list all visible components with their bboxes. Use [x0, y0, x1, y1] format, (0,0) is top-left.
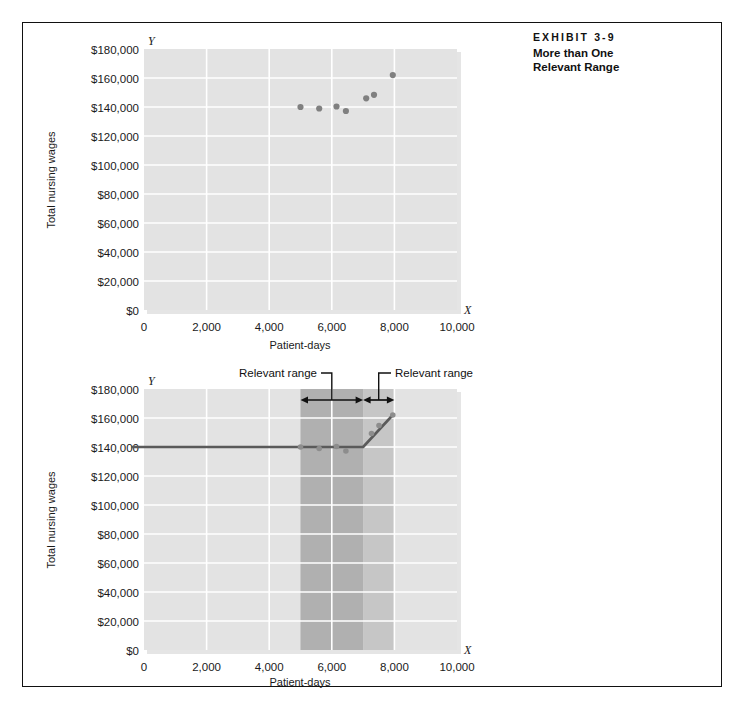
- exhibit-title-line1: More than One: [533, 46, 703, 60]
- x-tick-label: 6,000: [317, 321, 346, 333]
- y-tick-label: $120,000: [91, 131, 139, 143]
- x-tick-label: 10,000: [439, 661, 474, 673]
- data-point: [390, 412, 396, 418]
- exhibit-number: EXHIBIT 3-9: [533, 31, 703, 43]
- y-tick-label: $160,000: [91, 413, 139, 425]
- data-point: [316, 446, 322, 452]
- x-tick-label: 8,000: [380, 321, 409, 333]
- exhibit-title-line2: Relevant Range: [533, 60, 703, 74]
- x-axis-name: X: [463, 643, 472, 657]
- y-tick-label: $80,000: [97, 189, 139, 201]
- x-tick-label: 10,000: [439, 321, 474, 333]
- data-point: [316, 105, 322, 111]
- relevant-range-chart: Y X $180,000 $160,000 $140,000 $120,000 …: [23, 353, 503, 688]
- data-point: [363, 95, 369, 101]
- data-point: [334, 444, 340, 450]
- x-tick-label: 4,000: [255, 321, 284, 333]
- y-tick-label: $100,000: [91, 160, 139, 172]
- x-tick-label: 8,000: [380, 661, 409, 673]
- data-point: [333, 103, 339, 109]
- relevant-range-label-right: Relevant range: [395, 367, 473, 379]
- data-point: [343, 108, 349, 114]
- y-tick-label: $80,000: [97, 529, 139, 541]
- x-axis-name: X: [463, 303, 472, 317]
- data-point: [376, 423, 382, 429]
- y-tick-label: $40,000: [97, 587, 139, 599]
- data-point: [369, 431, 375, 437]
- x-tick-label: 0: [141, 661, 147, 673]
- y-tick-label: $40,000: [97, 247, 139, 259]
- y-tick-label: $20,000: [97, 616, 139, 628]
- data-point: [297, 104, 303, 110]
- relevant-range-label-left: Relevant range: [239, 367, 317, 379]
- y-tick-label: $0: [126, 645, 139, 657]
- data-point: [343, 448, 349, 454]
- y-tick-label: $20,000: [97, 276, 139, 288]
- x-tick-label: 2,000: [192, 321, 221, 333]
- x-tick-label: 2,000: [192, 661, 221, 673]
- x-tick-label: 6,000: [317, 661, 346, 673]
- data-point: [390, 72, 396, 78]
- data-point: [371, 92, 377, 98]
- data-point: [298, 444, 304, 450]
- x-tick-label: 0: [141, 321, 147, 333]
- y-tick-label: $60,000: [97, 558, 139, 570]
- x-axis-title: Patient-days: [269, 676, 331, 688]
- exhibit-caption: EXHIBIT 3-9 More than One Relevant Range: [533, 31, 703, 74]
- y-tick-label: $60,000: [97, 218, 139, 230]
- y-tick-label: $0: [126, 305, 139, 317]
- y-tick-label: $180,000: [91, 44, 139, 56]
- y-tick-label: $120,000: [91, 471, 139, 483]
- y-tick-label: $140,000: [91, 102, 139, 114]
- scatter-chart: Y X $180,000 $160,000 $140,000 $120,000 …: [23, 23, 503, 353]
- y-tick-label: $100,000: [91, 500, 139, 512]
- y-axis-name: Y: [148, 34, 156, 48]
- y-axis-name: Y: [148, 374, 156, 388]
- y-tick-label: $160,000: [91, 73, 139, 85]
- exhibit-page: EXHIBIT 3-9 More than One Relevant Range: [22, 22, 722, 687]
- y-axis-title: Total nursing wages: [45, 131, 57, 229]
- y-tick-label: $180,000: [91, 384, 139, 396]
- y-axis-title: Total nursing wages: [45, 471, 57, 569]
- x-axis-title: Patient-days: [269, 339, 331, 351]
- x-tick-label: 4,000: [255, 661, 284, 673]
